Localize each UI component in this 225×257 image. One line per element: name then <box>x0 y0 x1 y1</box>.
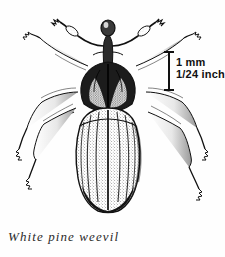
scale-bar: 1 mm 1/24 inch <box>160 48 222 94</box>
weevil-elytra <box>76 108 139 213</box>
scale-label-imperial: 1/24 inch <box>176 68 225 80</box>
scale-bar-labels: 1 mm 1/24 inch <box>176 56 225 80</box>
scale-bar-cap-bottom <box>164 89 174 91</box>
figure-caption: White pine weevil <box>8 229 119 245</box>
figure-panel: 1 mm 1/24 inch White pine weevil <box>0 0 225 257</box>
white-pine-weevil-illustration <box>0 0 225 257</box>
weevil-pronotum <box>81 62 135 112</box>
scale-label-metric: 1 mm <box>176 56 225 68</box>
scale-bar-line <box>168 52 170 90</box>
weevil-rostrum-and-head <box>93 20 123 66</box>
